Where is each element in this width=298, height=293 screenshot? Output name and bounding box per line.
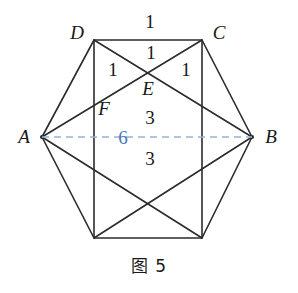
geometry-figure: A D C B E F 1 1 1 1 3 6 3 图 5 (0, 0, 298, 293)
diagonal-D-B (94, 40, 252, 137)
length-label-ab-6: 6 (118, 128, 128, 147)
point-label-F: F (98, 99, 110, 118)
hexagon-outline (42, 40, 252, 238)
vertex-label-B: B (265, 127, 277, 146)
length-label-lower-3: 3 (145, 149, 155, 168)
figure-caption: 图 5 (0, 252, 298, 277)
vertex-label-A: A (18, 127, 30, 146)
vertex-label-C: C (213, 23, 226, 42)
diagonal-A-C (42, 40, 202, 137)
vertex-label-D: D (70, 23, 84, 42)
length-label-de-left: 1 (108, 60, 118, 79)
diagonal-A-bottomright (42, 137, 202, 238)
length-label-ce-right: 1 (181, 60, 191, 79)
inner-chords (42, 40, 252, 238)
length-label-dc-top: 1 (145, 12, 155, 31)
hexagon-path (42, 40, 252, 238)
length-label-de-top: 1 (146, 43, 156, 62)
point-label-E: E (142, 79, 154, 98)
length-label-upper-3: 3 (145, 108, 155, 127)
diagonal-bottomleft-B (94, 137, 252, 238)
